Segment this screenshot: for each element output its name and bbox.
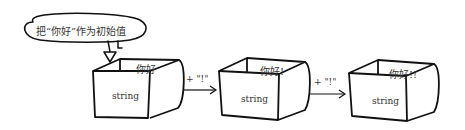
arrow-2	[310, 90, 345, 98]
arrow-2-label: + "!"	[314, 77, 336, 87]
arrow-1-label: + "!"	[186, 74, 208, 84]
diagram-canvas	[0, 0, 465, 130]
box-1-value: 你好	[136, 61, 156, 76]
box-3-value: 你好!!	[389, 66, 417, 81]
callout-text: 把“你好”作为初始值	[36, 23, 126, 38]
box-2-type: string	[241, 94, 268, 104]
box-1-type: string	[112, 91, 139, 101]
arrow-1	[183, 86, 216, 94]
box-2-value: 你好!	[260, 63, 284, 78]
box-3-type: string	[372, 96, 399, 106]
